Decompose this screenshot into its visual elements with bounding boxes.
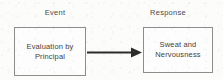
diagram-node-response: Sweat and Nervousness <box>143 27 213 73</box>
diagram-node-event: Evaluation by Principal <box>14 27 86 76</box>
arrow-right-icon <box>86 44 143 61</box>
diagram-node-response-label: Sweat and Nervousness <box>152 40 203 60</box>
column-label-event: Event <box>0 8 110 17</box>
column-label-response: Response <box>113 8 223 17</box>
arrow-head <box>131 48 142 58</box>
diagram-node-event-label: Evaluation by Principal <box>24 42 77 62</box>
flow-diagram: Event Response Evaluation by Principal S… <box>0 0 223 80</box>
